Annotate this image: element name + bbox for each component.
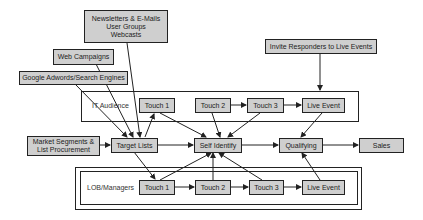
qualifying-node: Qualifying [279, 138, 323, 153]
newsletters-node: Newsletters & E-Mails User Groups Webcas… [84, 10, 168, 43]
lob-live-event-node: Live Event [302, 180, 345, 195]
it-touch-3-node: Touch 3 [247, 98, 284, 113]
google-adwords-node: Google Adwords/Search Engines [19, 71, 128, 85]
it-touch-1-node: Touch 1 [139, 98, 175, 113]
lob-touch-2-node: Touch 2 [195, 180, 231, 195]
sales-node: Sales [359, 138, 404, 153]
it-live-event-node: Live Event [302, 98, 345, 113]
marketing-funnel-diagram: IT Audience LOB/Managers [0, 0, 423, 220]
lob-touch-3-node: Touch 3 [249, 180, 284, 195]
web-campaigns-node: Web Campaigns [53, 49, 114, 65]
lob-touch-1-node: Touch 1 [139, 180, 175, 195]
market-segments-node: Market Segments & List Procurement [27, 136, 100, 156]
invite-responders-node: Invite Responders to Live Events [265, 39, 377, 54]
target-lists-node: Target Lists [111, 138, 158, 153]
it-touch-2-node: Touch 2 [195, 98, 231, 113]
self-identify-node: Self Identify [194, 138, 242, 153]
